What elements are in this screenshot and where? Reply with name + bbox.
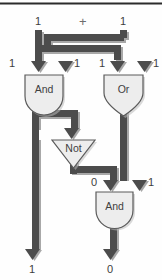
- label-output-right: 0: [107, 264, 113, 275]
- label-or-in-left: 1: [99, 58, 105, 69]
- top-rule: [0, 3, 162, 5]
- label-or-in-right: 1: [153, 58, 159, 69]
- gate-and-top[interactable]: And: [25, 75, 65, 117]
- label-and2-in-right: 1: [148, 177, 154, 188]
- gate-and-top-label: And: [35, 83, 54, 95]
- label-and2-in-left: 0: [91, 177, 97, 188]
- label-and-in-right: 1: [74, 58, 80, 69]
- label-output-left: 1: [29, 264, 35, 275]
- label-and-in-left: 1: [9, 58, 15, 69]
- gate-or-top-body: [104, 75, 143, 116]
- label-input-top-left: 1: [35, 16, 41, 27]
- gate-and-bottom[interactable]: And: [96, 192, 135, 231]
- label-input-top-right: 1: [120, 16, 126, 27]
- circuit-svg: And Or Not And: [0, 0, 162, 280]
- gate-and-bottom-label: And: [105, 200, 124, 212]
- plus-symbol: +: [79, 15, 87, 28]
- gate-not-label: Not: [65, 142, 81, 154]
- circuit-diagram: And Or Not And + 1 1 1 1 1 1 0 1 1 0: [0, 0, 162, 280]
- gate-not[interactable]: Not: [52, 140, 97, 170]
- gate-or-top[interactable]: Or: [104, 75, 145, 118]
- gate-and-top-body: [25, 75, 63, 115]
- gate-or-top-label: Or: [118, 83, 130, 95]
